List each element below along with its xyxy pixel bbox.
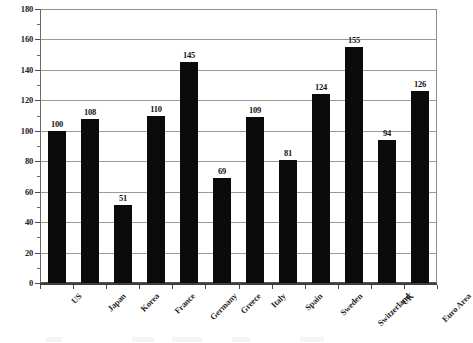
bar (81, 119, 99, 283)
x-axis-category-label: US (69, 291, 84, 306)
bar-value-label: 100 (37, 119, 77, 129)
bar (48, 131, 66, 283)
y-axis-tick-label: 60 (0, 187, 33, 197)
bar-value-label: 109 (235, 105, 275, 115)
x-axis-category-label: Spain (303, 291, 324, 312)
x-axis-category-label: Japan (105, 291, 127, 313)
y-axis-tick-label: 0 (0, 278, 33, 288)
gridline (41, 161, 436, 162)
bar (246, 117, 264, 283)
y-tick-major (35, 70, 40, 71)
bar-value-label: 69 (202, 166, 242, 176)
y-tick-major (35, 253, 40, 254)
x-tick (172, 285, 173, 289)
bar-value-label: 145 (169, 50, 209, 60)
y-axis-line (40, 9, 41, 284)
x-tick (106, 285, 107, 289)
bar (213, 178, 231, 283)
bar-value-label: 51 (103, 193, 143, 203)
bar-value-label: 81 (268, 148, 308, 158)
y-tick-minor (37, 207, 40, 208)
bar-value-label: 94 (367, 128, 407, 138)
x-tick (305, 285, 306, 289)
y-tick-major (35, 9, 40, 10)
y-tick-minor (37, 116, 40, 117)
x-axis-category-label: Korea (138, 291, 161, 314)
x-tick (139, 285, 140, 289)
y-tick-minor (37, 268, 40, 269)
y-tick-major (35, 100, 40, 101)
y-tick-minor (37, 146, 40, 147)
y-axis-tick-label: 140 (0, 65, 33, 75)
x-tick (371, 285, 372, 289)
bar-value-label: 110 (136, 104, 176, 114)
y-tick-major (35, 131, 40, 132)
x-axis-category-label: Euro Area (440, 291, 473, 324)
bar (312, 94, 330, 283)
y-tick-minor (37, 85, 40, 86)
bar (378, 140, 396, 283)
y-tick-minor (37, 176, 40, 177)
y-tick-minor (37, 237, 40, 238)
scan-artifact (132, 337, 154, 342)
x-axis-category-label: Sweden (338, 291, 364, 317)
x-axis-category-label: France (172, 291, 197, 316)
bar (147, 116, 165, 283)
gridline (41, 70, 436, 71)
y-axis-tick-label: 20 (0, 248, 33, 258)
bar-value-label: 124 (301, 82, 341, 92)
gridline (41, 100, 436, 101)
bar-value-label: 126 (400, 79, 440, 89)
bar (114, 205, 132, 283)
x-tick (205, 285, 206, 289)
x-tick (239, 285, 240, 289)
scan-artifact (172, 337, 202, 342)
y-axis-tick-label: 180 (0, 4, 33, 14)
y-axis-tick-label: 40 (0, 217, 33, 227)
gridline (41, 222, 436, 223)
x-tick (272, 285, 273, 289)
scan-artifact (46, 337, 62, 342)
x-tick (338, 285, 339, 289)
bar-value-label: 108 (70, 107, 110, 117)
y-tick-minor (37, 55, 40, 56)
x-tick (73, 285, 74, 289)
y-tick-major (35, 222, 40, 223)
gridline (41, 192, 436, 193)
bar (279, 160, 297, 283)
gridline (41, 253, 436, 254)
y-axis-tick-label: 160 (0, 34, 33, 44)
x-axis-category-label: Greece (238, 291, 263, 316)
x-tick (40, 285, 41, 289)
scan-artifact (232, 337, 250, 342)
bar (345, 47, 363, 283)
bar (411, 91, 429, 283)
x-axis-category-label: Italy (269, 291, 288, 310)
y-axis-tick-label: 100 (0, 126, 33, 136)
y-axis-tick-label: 80 (0, 156, 33, 166)
bar (180, 62, 198, 283)
x-tick (404, 285, 405, 289)
x-axis-category-label: Germany (208, 291, 239, 322)
x-tick (437, 285, 438, 289)
y-tick-major (35, 161, 40, 162)
bar-value-label: 155 (334, 35, 374, 45)
y-tick-major (35, 192, 40, 193)
scan-artifact (300, 337, 324, 342)
y-tick-minor (37, 24, 40, 25)
y-tick-major (35, 39, 40, 40)
y-axis-tick-label: 120 (0, 95, 33, 105)
gridline (41, 39, 436, 40)
